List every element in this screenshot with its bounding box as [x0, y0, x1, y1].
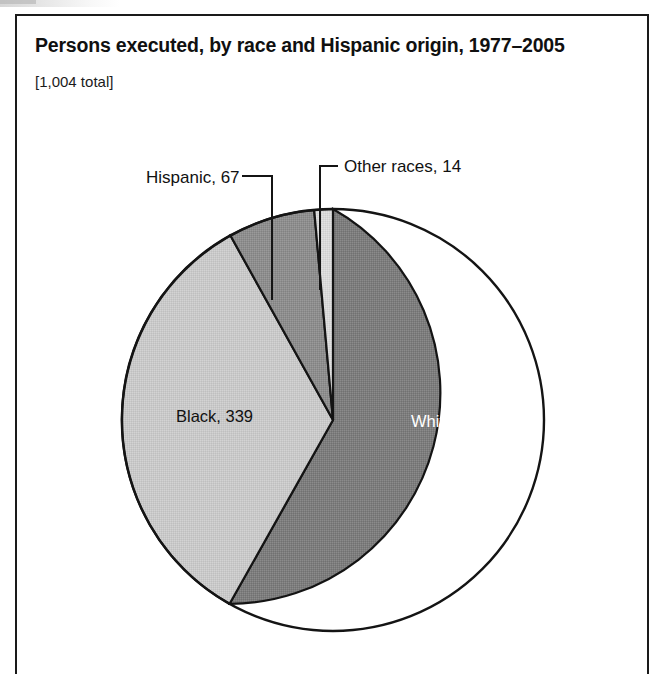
slice-label-hispanic: Hispanic, 67	[146, 168, 240, 188]
slice-label-white: White, 584	[411, 412, 490, 431]
slice-label-other-races: Other races, 14	[344, 157, 461, 177]
slice-label-black: Black, 339	[176, 407, 253, 426]
